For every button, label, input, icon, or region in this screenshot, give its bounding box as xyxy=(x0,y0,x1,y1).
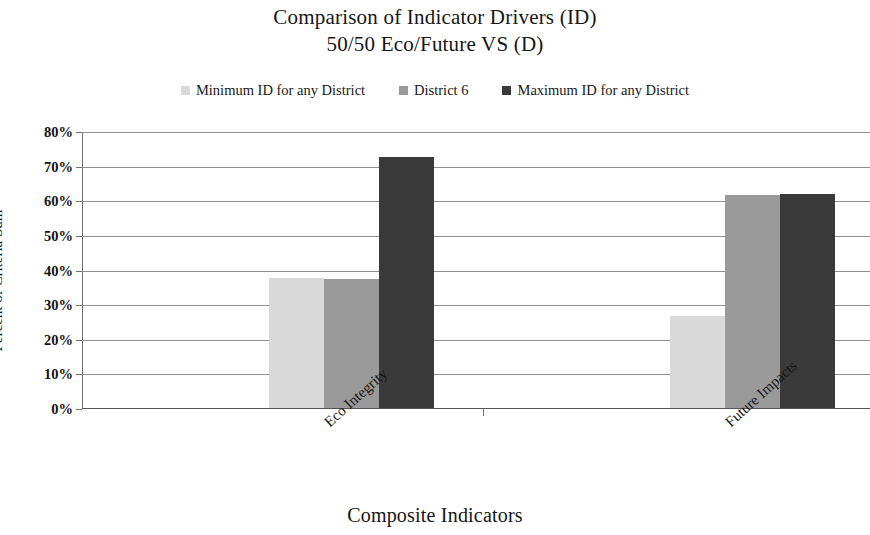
y-axis-tick-mark xyxy=(76,271,82,272)
bar xyxy=(670,316,725,408)
y-axis-tick-label: 30% xyxy=(44,298,73,313)
legend-label-maximum-id: Maximum ID for any District xyxy=(517,82,689,98)
y-axis-tick-label: 40% xyxy=(44,263,73,278)
x-axis-tick-mark xyxy=(483,409,484,416)
legend-item-district-6: District 6 xyxy=(399,82,468,98)
bar xyxy=(269,278,324,408)
gridline xyxy=(82,132,870,133)
y-axis-tick-label: 80% xyxy=(44,125,73,140)
y-axis-tick-mark xyxy=(76,305,82,306)
legend-swatch-icon-minimum-id xyxy=(181,86,190,95)
legend-label-district-6: District 6 xyxy=(414,82,468,98)
y-axis-tick-mark xyxy=(76,374,82,375)
y-axis-tick-mark xyxy=(76,167,82,168)
y-axis-tick-label: 10% xyxy=(44,367,73,382)
chart-title: Comparison of Indicator Drivers (ID) 50/… xyxy=(0,4,870,58)
y-axis-tick-mark xyxy=(76,132,82,133)
x-axis-title: Composite Indicators xyxy=(0,503,870,527)
chart-title-line1: Comparison of Indicator Drivers (ID) xyxy=(273,5,596,29)
y-axis-tick-label: 60% xyxy=(44,194,73,209)
legend-label-minimum-id: Minimum ID for any District xyxy=(196,82,365,98)
y-axis-tick-mark xyxy=(76,409,82,410)
y-axis-tick-mark xyxy=(76,236,82,237)
plot-area: 80%70%60%50%40%30%20%10%0% xyxy=(82,132,870,409)
y-axis-tick-label: 20% xyxy=(44,332,73,347)
y-axis-tick-label: 70% xyxy=(44,159,73,174)
y-axis-tick-mark xyxy=(76,201,82,202)
legend-swatch-icon-maximum-id xyxy=(502,86,511,95)
legend-swatch-icon-district-6 xyxy=(399,86,408,95)
legend-item-minimum-id: Minimum ID for any District xyxy=(181,82,365,98)
y-axis-tick-mark xyxy=(76,340,82,341)
legend-item-maximum-id: Maximum ID for any District xyxy=(502,82,689,98)
gridline xyxy=(82,167,870,168)
chart-legend: Minimum ID for any District District 6 M… xyxy=(0,82,870,98)
y-axis-title: Percent of Criteria Sum xyxy=(0,209,6,351)
y-axis-tick-label: 0% xyxy=(51,402,73,417)
chart-title-line2: 50/50 Eco/Future VS (D) xyxy=(0,31,870,58)
bar xyxy=(379,157,434,408)
bar-chart: Comparison of Indicator Drivers (ID) 50/… xyxy=(0,0,870,535)
y-axis-tick-label: 50% xyxy=(44,228,73,243)
